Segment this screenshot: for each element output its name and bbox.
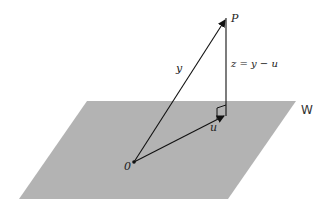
origin-point: [132, 160, 136, 164]
projection-diagram: P y z = y − u W u 0: [0, 0, 330, 211]
label-y: y: [176, 63, 182, 74]
label-origin: 0: [124, 161, 131, 172]
label-z-eq: z = y − u: [231, 59, 278, 69]
label-w: W: [301, 104, 313, 116]
label-u: u: [210, 122, 217, 133]
label-p: P: [231, 13, 238, 24]
diagram-canvas: [0, 0, 330, 211]
